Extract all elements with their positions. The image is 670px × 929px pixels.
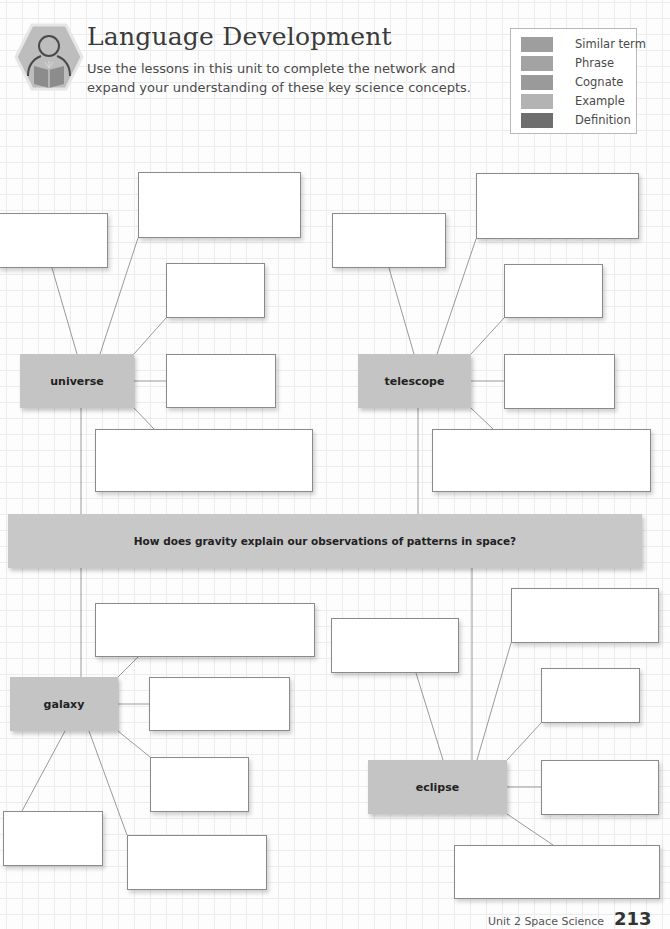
page-number: 213 — [614, 908, 652, 929]
legend-swatch — [521, 75, 553, 90]
galaxy-answer-box-2[interactable] — [149, 677, 290, 731]
universe-answer-box-4[interactable] — [166, 354, 276, 408]
telescope-answer-box-1[interactable] — [332, 213, 446, 268]
telescope-answer-box-4[interactable] — [504, 354, 615, 409]
eclipse-answer-box-3[interactable] — [541, 668, 640, 723]
page-footer: Unit 2 Space Science213 — [488, 908, 652, 929]
legend-item-cognate: Cognate — [521, 75, 623, 89]
reader-book-hexagon-icon — [14, 22, 84, 92]
legend-item-example: Example — [521, 94, 625, 108]
legend-label: Cognate — [575, 75, 623, 89]
galaxy-answer-box-3[interactable] — [150, 757, 249, 812]
galaxy-answer-box-4[interactable] — [3, 811, 103, 866]
term-eclipse: eclipse — [368, 760, 507, 814]
legend-label: Similar term — [575, 37, 646, 51]
eclipse-answer-box-4[interactable] — [541, 760, 659, 815]
legend-swatch — [521, 37, 553, 52]
term-telescope: telescope — [358, 354, 471, 408]
legend-item-similar-term: Similar term — [521, 37, 646, 51]
term-universe: universe — [20, 354, 134, 408]
legend-label: Example — [575, 94, 625, 108]
eclipse-answer-box-1[interactable] — [331, 618, 459, 673]
page-title: Language Development — [87, 22, 392, 51]
legend-label: Definition — [575, 113, 631, 127]
legend: Similar term Phrase Cognate Example Defi… — [510, 28, 637, 134]
legend-item-phrase: Phrase — [521, 56, 614, 70]
legend-swatch — [521, 94, 553, 109]
eclipse-answer-box-5[interactable] — [454, 845, 660, 899]
telescope-answer-box-2[interactable] — [476, 173, 639, 239]
eclipse-answer-box-2[interactable] — [511, 588, 659, 643]
telescope-answer-box-3[interactable] — [504, 264, 603, 318]
footer-unit: Unit 2 Space Science — [488, 915, 604, 928]
universe-answer-box-2[interactable] — [138, 172, 301, 238]
universe-answer-box-3[interactable] — [166, 263, 265, 318]
universe-answer-box-5[interactable] — [95, 429, 313, 492]
page-instructions: Use the lessons in this unit to complete… — [87, 59, 507, 97]
universe-answer-box-1[interactable] — [0, 213, 108, 268]
term-galaxy: galaxy — [10, 677, 118, 731]
legend-swatch — [521, 56, 553, 71]
central-question: How does gravity explain our observation… — [8, 514, 642, 568]
galaxy-answer-box-1[interactable] — [95, 603, 315, 657]
legend-label: Phrase — [575, 56, 614, 70]
legend-swatch — [521, 113, 553, 128]
galaxy-answer-box-5[interactable] — [127, 835, 267, 890]
legend-item-definition: Definition — [521, 113, 631, 127]
telescope-answer-box-5[interactable] — [432, 429, 651, 492]
